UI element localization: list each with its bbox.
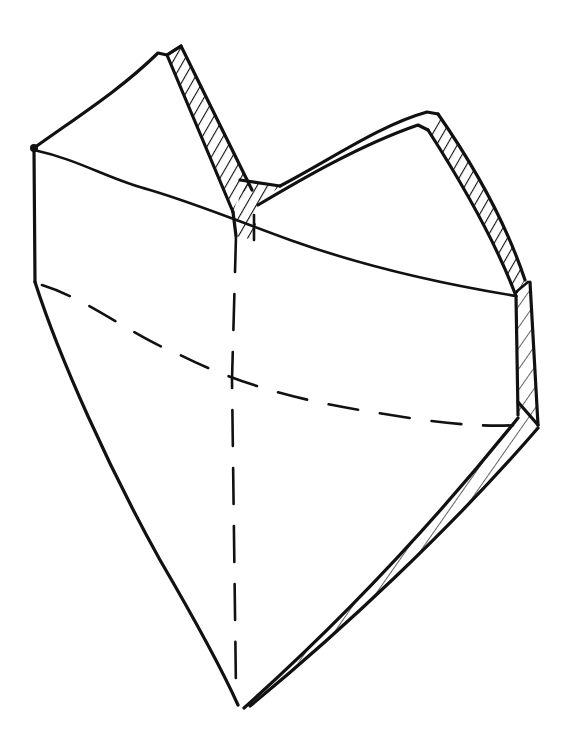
hatched-thickness-edge-left-lobe — [167, 46, 252, 212]
hatched-thickness-edge-right-side — [516, 282, 538, 425]
hatched-thickness-edge-right-lobe — [428, 114, 525, 296]
hatched-thickness-edge-bottom-right — [244, 415, 538, 708]
heart-sketch — [0, 0, 581, 743]
right-top-lobe-face — [258, 112, 438, 205]
front-top-edge — [34, 150, 516, 296]
hatched-notch — [233, 180, 280, 240]
left-front-face — [34, 150, 238, 705]
dashed-hidden-edges — [42, 236, 518, 690]
